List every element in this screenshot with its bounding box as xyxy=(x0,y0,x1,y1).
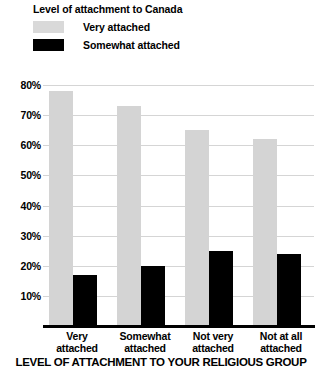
bar-very-attached xyxy=(117,106,141,326)
bar-series-container xyxy=(43,73,315,326)
x-axis-label: Not veryattached xyxy=(179,330,247,354)
legend-swatch-somewhat-attached xyxy=(33,39,64,51)
bar-group xyxy=(111,73,179,326)
y-tick-label: 30% xyxy=(3,230,41,242)
x-axis-line xyxy=(43,325,315,328)
legend-label-somewhat-attached: Somewhat attached xyxy=(83,39,180,51)
y-tick-label: 80% xyxy=(3,79,41,91)
y-tick-label: 70% xyxy=(3,109,41,121)
bar-somewhat-attached xyxy=(141,266,165,326)
x-axis-label: Not at allattached xyxy=(247,330,315,354)
x-axis-title: LEVEL OF ATTACHMENT TO YOUR RELIGIOUS GR… xyxy=(0,356,322,368)
bar-very-attached xyxy=(185,130,209,326)
bar-very-attached xyxy=(253,139,277,326)
bar-very-attached xyxy=(49,91,73,326)
bar-group xyxy=(179,73,247,326)
chart-legend: Level of attachment to Canada Very attac… xyxy=(33,3,313,52)
legend-swatch-very-attached xyxy=(33,21,64,33)
y-tick-label: 50% xyxy=(3,169,41,181)
legend-item-very-attached: Very attached xyxy=(33,20,313,34)
y-tick-label: 40% xyxy=(3,200,41,212)
bar-somewhat-attached xyxy=(277,254,301,326)
legend-item-somewhat-attached: Somewhat attached xyxy=(33,38,313,52)
bar-somewhat-attached xyxy=(209,251,233,326)
y-tick-label: 20% xyxy=(3,260,41,272)
bar-chart: Level of attachment to Canada Very attac… xyxy=(0,0,322,380)
x-axis-label: Veryattached xyxy=(43,330,111,354)
legend-label-very-attached: Very attached xyxy=(83,21,150,33)
legend-title: Level of attachment to Canada xyxy=(33,3,313,16)
bar-group xyxy=(247,73,315,326)
bar-somewhat-attached xyxy=(73,275,97,326)
y-tick-label: 10% xyxy=(3,290,41,302)
y-axis-ticks: 10%20%30%40%50%60%70%80% xyxy=(0,73,41,326)
y-tick-label: 60% xyxy=(3,139,41,151)
x-axis-labels: VeryattachedSomewhatattachedNot veryatta… xyxy=(43,330,315,358)
x-axis-label: Somewhatattached xyxy=(111,330,179,354)
bar-group xyxy=(43,73,111,326)
